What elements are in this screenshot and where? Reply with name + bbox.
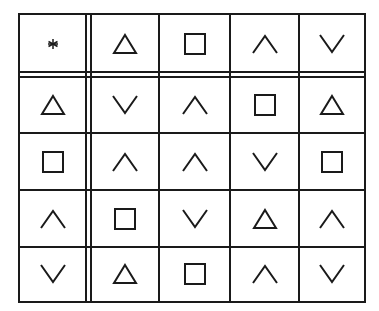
table-cell [159, 247, 230, 301]
table-cell [299, 77, 364, 133]
asterisk-icon [47, 38, 59, 50]
corner-cell [20, 15, 86, 72]
caret-up-icon [318, 208, 346, 230]
caret-down-icon [318, 263, 346, 285]
triangle-icon [252, 208, 278, 230]
header-cell [91, 15, 159, 72]
caret-down-icon [181, 208, 209, 230]
caret-up-icon [39, 208, 67, 230]
table-cell [230, 190, 299, 247]
square-icon [253, 93, 277, 117]
table-cell [299, 247, 364, 301]
symbol-table [18, 13, 366, 303]
header-cell [159, 15, 230, 72]
triangle-icon [319, 94, 345, 116]
table-cell [91, 190, 159, 247]
table-cell [159, 77, 230, 133]
table-cell [159, 133, 230, 190]
table-cell [299, 190, 364, 247]
triangle-icon [40, 94, 66, 116]
row-header-cell [20, 190, 86, 247]
table-cell [91, 77, 159, 133]
square-icon [183, 262, 207, 286]
table-cell [230, 133, 299, 190]
caret-up-icon [251, 263, 279, 285]
table-cell [230, 247, 299, 301]
triangle-icon [112, 263, 138, 285]
row-header-cell [20, 247, 86, 301]
caret-up-icon [181, 94, 209, 116]
header-cell [299, 15, 364, 72]
square-icon [183, 32, 207, 56]
table-cell [230, 77, 299, 133]
table-cell [91, 247, 159, 301]
triangle-icon [112, 33, 138, 55]
square-icon [41, 150, 65, 174]
table-cell [159, 190, 230, 247]
caret-down-icon [39, 263, 67, 285]
row-header-cell [20, 133, 86, 190]
square-icon [320, 150, 344, 174]
table-cell [91, 133, 159, 190]
caret-up-icon [181, 151, 209, 173]
caret-down-icon [111, 94, 139, 116]
row-header-cell [20, 77, 86, 133]
caret-up-icon [251, 33, 279, 55]
table-cell [299, 133, 364, 190]
header-cell [230, 15, 299, 72]
square-icon [113, 207, 137, 231]
caret-down-icon [251, 151, 279, 173]
caret-up-icon [111, 151, 139, 173]
caret-down-icon [318, 33, 346, 55]
